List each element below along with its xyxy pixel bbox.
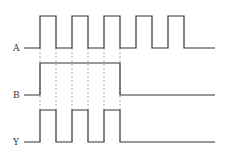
signal-label-b: B — [13, 90, 20, 100]
waveform-y — [24, 110, 215, 142]
signal-waveforms — [24, 16, 215, 142]
signal-label-a: A — [12, 43, 20, 53]
dashed-guides — [40, 48, 120, 110]
timing-diagram: A B Y — [0, 0, 225, 159]
waveform-b — [24, 63, 215, 95]
waveform-a — [24, 16, 215, 48]
signal-label-y: Y — [12, 137, 20, 147]
